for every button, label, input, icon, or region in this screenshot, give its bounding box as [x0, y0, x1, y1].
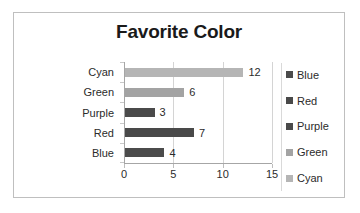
- legend-item-cyan[interactable]: Cyan: [286, 165, 344, 191]
- value-tick-label-15: 15: [266, 168, 278, 180]
- value-tick-label-0: 0: [121, 168, 127, 180]
- category-axis: Cyan Green Purple Red Blue: [75, 62, 120, 163]
- bar-row[interactable]: 7: [125, 123, 272, 143]
- bar-green[interactable]: [125, 88, 184, 97]
- bar-row[interactable]: 4: [125, 143, 272, 163]
- chart-title: Favorite Color: [14, 21, 344, 43]
- bar-value-label-purple: 3: [160, 106, 166, 118]
- legend-item-purple[interactable]: Purple: [286, 114, 344, 140]
- legend-label: Red: [297, 95, 317, 107]
- plot-area: Cyan Green Purple Red Blue 126374 051015: [75, 62, 272, 191]
- category-label-red: Red: [75, 123, 120, 143]
- bar-blue[interactable]: [125, 148, 164, 157]
- legend-item-red[interactable]: Red: [286, 88, 344, 114]
- bar-row[interactable]: 3: [125, 102, 272, 122]
- value-tick-label-10: 10: [217, 168, 229, 180]
- gridline: [272, 62, 273, 163]
- bar-cyan[interactable]: [125, 68, 243, 77]
- category-label-blue: Blue: [75, 143, 120, 163]
- bar-purple[interactable]: [125, 108, 155, 117]
- legend-swatch-icon: [286, 71, 293, 78]
- legend-divider: [281, 63, 282, 191]
- bar-red[interactable]: [125, 128, 194, 137]
- legend-label: Purple: [297, 120, 329, 132]
- legend-label: Blue: [297, 69, 319, 81]
- bar-value-label-green: 6: [189, 86, 195, 98]
- chart-container: Favorite Color Cyan Green Purple Red Blu…: [13, 12, 345, 198]
- legend-label: Cyan: [297, 172, 323, 184]
- bar-value-label-blue: 4: [169, 147, 175, 159]
- bars-plot-box: 126374: [124, 62, 272, 163]
- legend-item-green[interactable]: Green: [286, 139, 344, 165]
- bar-value-label-red: 7: [199, 127, 205, 139]
- category-label-cyan: Cyan: [75, 62, 120, 82]
- legend-swatch-icon: [286, 123, 293, 130]
- value-axis-labels: 051015: [124, 168, 272, 184]
- bar-value-label-cyan: 12: [248, 66, 260, 78]
- legend-item-blue[interactable]: Blue: [286, 62, 344, 88]
- legend-swatch-icon: [286, 97, 293, 104]
- category-label-green: Green: [75, 82, 120, 102]
- bar-row[interactable]: 12: [125, 62, 272, 82]
- legend-label: Green: [297, 146, 328, 158]
- chart-legend: BlueRedPurpleGreenCyan: [286, 62, 344, 191]
- value-tick-label-5: 5: [170, 168, 176, 180]
- bar-row[interactable]: 6: [125, 82, 272, 102]
- legend-swatch-icon: [286, 149, 293, 156]
- legend-swatch-icon: [286, 175, 293, 182]
- category-label-purple: Purple: [75, 102, 120, 122]
